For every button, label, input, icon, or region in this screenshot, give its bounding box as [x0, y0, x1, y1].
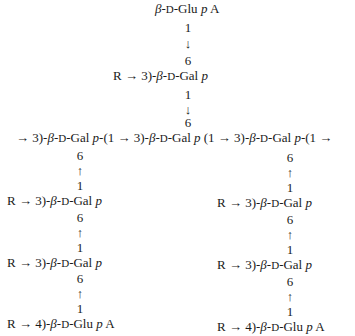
right-galactose-residue-1: R → 3)-β-D-Gal p	[217, 196, 312, 210]
left-link3-to: 6	[77, 272, 84, 286]
left-link2-to: 6	[77, 211, 84, 225]
up-arrow-icon: ↑	[77, 164, 84, 178]
right-link2-from: 1	[287, 243, 294, 257]
up-arrow-icon: ↑	[287, 290, 294, 304]
right-link1-from: 1	[287, 181, 294, 195]
right-link2-to: 6	[287, 213, 294, 227]
down-arrow-icon: ↓	[185, 37, 192, 51]
left-terminal-glucuronic-acid: R → 4)-β-D-Glu p A	[7, 317, 115, 331]
up-arrow-icon: ↑	[287, 228, 294, 242]
top-link2-to: 6	[185, 116, 192, 130]
up-arrow-icon: ↑	[77, 287, 84, 301]
right-link1-to: 6	[287, 151, 294, 165]
up-arrow-icon: ↑	[77, 226, 84, 240]
top-link1-to: 6	[185, 54, 192, 68]
main-chain: → 3)-β-D-Gal p-(1 → 3)-β-D-Gal p (1 → 3)…	[16, 131, 332, 145]
right-link3-to: 6	[287, 275, 294, 289]
left-galactose-residue-2: R → 3)-β-D-Gal p	[7, 256, 102, 270]
left-link2-from: 1	[77, 241, 84, 255]
left-galactose-residue-1: R → 3)-β-D-Gal p	[7, 194, 102, 208]
right-galactose-residue-2: R → 3)-β-D-Gal p	[217, 258, 312, 272]
top-galactose-residue: R → 3)-β-D-Gal p	[113, 69, 208, 83]
top-link1-from: 1	[185, 21, 192, 35]
right-link3-from: 1	[287, 305, 294, 319]
left-link1-to: 6	[77, 149, 84, 163]
left-link1-from: 1	[77, 179, 84, 193]
top-terminal-glucuronic-acid: β-D-Glu p A	[155, 2, 219, 16]
top-link2-from: 1	[185, 88, 192, 102]
up-arrow-icon: ↑	[287, 166, 294, 180]
right-terminal-glucuronic-acid: R → 4)-β-D-Glu p A	[217, 320, 325, 334]
left-link3-from: 1	[77, 302, 84, 316]
